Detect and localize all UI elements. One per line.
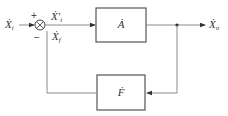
input-label: Ẋi: [5, 19, 14, 34]
summing-junction: [35, 20, 45, 30]
minus-sign: −: [34, 33, 40, 43]
feedback-path-right: [147, 25, 177, 93]
error-signal-label: Ẋ′i: [51, 11, 62, 26]
feedback-block-label: Ḟ: [97, 86, 145, 98]
plus-sign: +: [31, 11, 37, 21]
feedback-signal-label: Ẋf: [52, 31, 61, 46]
forward-block-label: Ȧ: [96, 18, 146, 30]
output-label: Ẋo: [209, 19, 219, 34]
